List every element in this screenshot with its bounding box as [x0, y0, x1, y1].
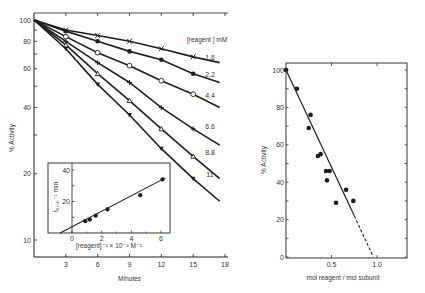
- filled-circle-marker: [191, 71, 196, 76]
- right-point: [334, 200, 339, 205]
- inset-x-tick-label: 2: [100, 235, 104, 242]
- open-circle-marker: [63, 34, 68, 39]
- filled-circle-marker: [127, 49, 132, 54]
- filled-circle-marker: [95, 39, 100, 44]
- y-tick-label: 10: [23, 237, 31, 244]
- inset-point: [83, 219, 87, 223]
- legend-title: [reagent ] mM: [187, 36, 227, 44]
- inset-y-label: t₀.₅₀⁻¹ min: [52, 182, 59, 212]
- inset-point: [106, 207, 110, 211]
- x-tick-label: 9: [128, 261, 132, 268]
- right-point: [284, 68, 289, 73]
- series-4.4: 4.4: [34, 20, 220, 108]
- series-2.2: 2.2: [34, 20, 220, 82]
- inset-point: [88, 218, 92, 222]
- right-x-label: mol reagent / mol subunit: [307, 274, 380, 282]
- series-line: [34, 20, 220, 179]
- right-y-tick-label: 60: [276, 141, 284, 148]
- filled-circle-marker: [159, 57, 164, 62]
- right-y-tick-label: 100: [272, 67, 284, 74]
- right-y-tick-label: 80: [276, 104, 284, 111]
- y-tick-label: 60: [23, 65, 31, 72]
- inset-chart: 02462040[reagent]⁻¹ × 10⁻² M⁻¹t₀.₅₀⁻¹ mi…: [48, 163, 170, 250]
- right-x-tick-label: 0.5: [327, 261, 337, 268]
- right-y-tick-label: 40: [276, 179, 284, 186]
- right-y-tick-label: 0: [280, 254, 284, 261]
- open-circle-marker: [127, 63, 132, 68]
- inset-y-tick-label: 20: [62, 198, 70, 205]
- right-point: [306, 126, 311, 131]
- right-point: [325, 178, 330, 183]
- open-circle-marker: [191, 92, 196, 97]
- inset-point: [138, 193, 142, 197]
- right-y-tick-label: 20: [276, 216, 284, 223]
- right-point: [308, 113, 313, 118]
- figure: 3691215181020406080100Minutes% Activity[…: [0, 0, 425, 293]
- line-label: 4.4: [205, 92, 215, 99]
- line-label: 6.6: [205, 123, 215, 130]
- right-chart: 0.51.0020406080100mol reagent / mol subu…: [260, 63, 407, 282]
- right-point: [344, 187, 349, 192]
- inset-x-tick-label: 6: [159, 235, 163, 242]
- open-circle-marker: [95, 50, 100, 55]
- right-point: [318, 152, 323, 157]
- inset-x-label: [reagent]⁻¹ × 10⁻² M⁻¹: [76, 242, 143, 250]
- inset-point: [94, 214, 98, 218]
- right-point: [351, 199, 356, 204]
- x-tick-label: 3: [64, 261, 68, 268]
- inset-point: [160, 177, 164, 181]
- x-tick-label: 6: [96, 261, 100, 268]
- line-label: 1.6: [205, 54, 215, 61]
- y-tick-label: 40: [23, 104, 31, 111]
- main-x-label: Minutes: [118, 275, 142, 282]
- filled-circle-marker: [64, 29, 69, 34]
- right-frame: [286, 63, 407, 258]
- x-tick-label: 12: [157, 261, 165, 268]
- open-circle-marker: [159, 78, 164, 83]
- right-y-label: % Activity: [260, 145, 268, 174]
- right-point: [327, 169, 332, 174]
- y-tick-label: 80: [23, 38, 31, 45]
- right-x-tick-label: 1.0: [372, 261, 382, 268]
- right-point: [295, 86, 300, 91]
- inset-y-tick-label: 40: [62, 167, 70, 174]
- main-y-label: % Activity: [8, 123, 16, 152]
- x-tick-label: 15: [189, 261, 197, 268]
- line-label: 8.8: [205, 149, 215, 156]
- line-label: 2.2: [205, 71, 215, 78]
- series-8.8: 8.8: [34, 20, 220, 179]
- inset-x-tick-label: 0: [70, 235, 74, 242]
- y-tick-label: 20: [23, 170, 31, 177]
- x-tick-label: 18: [221, 261, 229, 268]
- right-extrapolated-line: [354, 216, 373, 257]
- inset-x-tick-label: 4: [129, 235, 133, 242]
- right-fit-line: [286, 70, 354, 216]
- line-label: 11: [206, 171, 213, 178]
- y-tick-label: 100: [19, 17, 31, 24]
